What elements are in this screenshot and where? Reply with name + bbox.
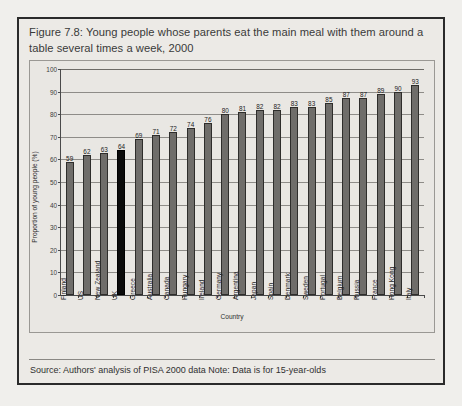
bar-value-label: 82 — [256, 103, 263, 110]
bar-argentina: 81 — [238, 112, 246, 295]
x-tick-mark — [424, 295, 425, 298]
bar-slot: 69Greece — [130, 69, 147, 295]
bar-spain: 82 — [273, 110, 281, 295]
x-tick-label-germany: Germany — [215, 273, 222, 300]
bar-ireland: 76 — [204, 123, 212, 295]
bar-value-label: 59 — [66, 155, 73, 162]
x-tick-label-us: US — [76, 291, 83, 300]
bar-value-label: 83 — [308, 100, 315, 107]
bar-value-label: 71 — [153, 128, 160, 135]
bar-slot: 59Finland — [61, 69, 78, 295]
bar-greece: 69 — [135, 139, 143, 295]
bar-france: 89 — [377, 94, 385, 295]
y-tick-label: 70 — [50, 133, 57, 140]
bar-belgium: 87 — [342, 98, 350, 295]
chart-panel: Proportion of young people (%) 010203040… — [29, 60, 435, 333]
y-tick-label: 10 — [50, 269, 57, 276]
bar-portugal: 85 — [325, 103, 333, 295]
bar-sweden: 83 — [308, 107, 316, 295]
x-tick-label-japan: Japan — [249, 282, 256, 300]
x-tick-label-france: France — [370, 279, 377, 300]
bar-value-label: 81 — [239, 105, 246, 112]
x-tick-label-canada: Canada — [163, 277, 170, 300]
bar-us: 62 — [83, 155, 91, 295]
bar-slot: 85Portugal — [320, 69, 337, 295]
bar-slot: 82Spain — [268, 69, 285, 295]
x-tick-label-hong-kong: Hong Kong — [388, 267, 395, 300]
bar-slot: 76Ireland — [199, 69, 216, 295]
y-tick-label: 0 — [53, 292, 57, 299]
bar-slot: 81Argentina — [234, 69, 251, 295]
x-tick-label-portugal: Portugal — [318, 275, 325, 300]
bar-value-label: 62 — [83, 148, 90, 155]
bar-hong-kong: 90 — [394, 92, 402, 295]
y-axis-label: Proportion of young people (%) — [31, 151, 38, 242]
figure-title: Figure 7.8: Young people whose parents e… — [29, 25, 433, 56]
bar-value-label: 64 — [118, 143, 125, 150]
source-divider — [29, 359, 435, 360]
bar-value-label: 93 — [412, 78, 419, 85]
x-tick-label-ireland: Ireland — [197, 279, 204, 300]
bar-value-label: 69 — [135, 132, 142, 139]
bar-value-label: 72 — [170, 125, 177, 132]
x-tick-label-argentina: Argentina — [232, 271, 239, 300]
bar-slot: 82Japan — [251, 69, 268, 295]
x-tick-label-hungary: Hungary — [180, 275, 187, 300]
bar-value-label: 90 — [395, 85, 402, 92]
x-tick-label-denmark: Denmark — [284, 273, 291, 300]
bar-value-label: 76 — [204, 116, 211, 123]
bar-germany: 80 — [221, 114, 229, 295]
y-tick-label: 20 — [50, 246, 57, 253]
bar-hungary: 74 — [187, 128, 195, 295]
y-tick-label: 100 — [46, 66, 57, 73]
x-tick-label-new-zealand: New Zealand — [94, 261, 101, 300]
bar-slot: 93Italy — [407, 69, 424, 295]
y-tick-label: 60 — [50, 156, 57, 163]
bar-value-label: 87 — [360, 91, 367, 98]
bar-slot: 87Russia — [355, 69, 372, 295]
x-axis-label: Country — [30, 313, 434, 320]
x-tick-label-spain: Spain — [267, 283, 274, 300]
bar-slot: 72Canada — [165, 69, 182, 295]
bar-value-label: 63 — [101, 146, 108, 153]
y-tick-label: 40 — [50, 201, 57, 208]
bar-italy: 93 — [411, 85, 419, 295]
bar-russia: 87 — [359, 98, 367, 295]
bar-value-label: 87 — [343, 91, 350, 98]
bar-denmark: 83 — [290, 107, 298, 295]
bar-slot: 74Hungary — [182, 69, 199, 295]
figure-container: Figure 7.8: Young people whose parents e… — [17, 17, 445, 385]
x-tick-label-australia: Australia — [146, 274, 153, 300]
bar-value-label: 82 — [274, 103, 281, 110]
x-tick-label-belgium: Belgium — [336, 276, 343, 300]
x-tick-label-uk: UK — [111, 291, 118, 300]
bar-value-label: 83 — [291, 100, 298, 107]
bar-slot: 83Denmark — [286, 69, 303, 295]
bar-slot: 83Sweden — [303, 69, 320, 295]
bar-slot: 89France — [372, 69, 389, 295]
y-tick-label: 30 — [50, 224, 57, 231]
bar-canada: 72 — [169, 132, 177, 295]
bar-value-label: 85 — [325, 96, 332, 103]
bar-value-label: 80 — [222, 107, 229, 114]
bar-value-label: 74 — [187, 121, 194, 128]
x-tick-label-italy: Italy — [405, 288, 412, 300]
bar-new-zealand: 63 — [100, 153, 108, 295]
bar-slot: 87Belgium — [338, 69, 355, 295]
bar-slot: 71Australia — [147, 69, 164, 295]
source-note: Source: Authors' analysis of PISA 2000 d… — [30, 365, 434, 375]
bar-slot: 63New Zealand — [96, 69, 113, 295]
x-tick-label-sweden: Sweden — [301, 276, 308, 300]
bar-slot: 64UK — [113, 69, 130, 295]
bar-finland: 59 — [66, 162, 74, 295]
x-tick-label-greece: Greece — [128, 278, 135, 300]
y-tick-label: 50 — [50, 179, 57, 186]
bar-australia: 71 — [152, 135, 160, 295]
bar-uk: 64 — [117, 150, 125, 295]
x-tick-label-finland: Finland — [59, 278, 66, 300]
plot-area: 0102030405060708090100 59Finland62US63Ne… — [60, 69, 424, 296]
bar-japan: 82 — [256, 110, 264, 295]
bar-value-label: 89 — [377, 87, 384, 94]
bar-slot: 90Hong Kong — [389, 69, 406, 295]
x-tick-label-russia: Russia — [353, 280, 360, 300]
